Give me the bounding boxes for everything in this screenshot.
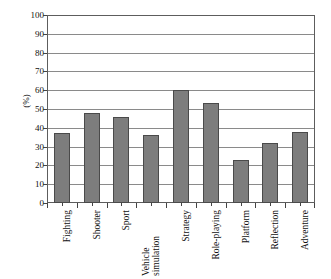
bar[interactable] xyxy=(233,160,249,203)
bar[interactable] xyxy=(84,113,100,203)
bar-slot xyxy=(166,15,196,203)
x-axis-tick-mark xyxy=(255,203,256,208)
y-axis-tick-label: 60 xyxy=(22,86,44,95)
y-axis-tick-label: 40 xyxy=(22,123,44,132)
x-axis-tick-mark xyxy=(226,203,227,208)
x-axis-tick-mark xyxy=(270,203,271,206)
x-axis-tick-label-line: simulation xyxy=(151,210,161,276)
x-axis-tick-label: Role-playing xyxy=(211,210,221,260)
bar-slot xyxy=(136,15,166,203)
y-axis-tick-mark xyxy=(43,53,47,54)
y-axis-tick-label: 100 xyxy=(22,11,44,20)
x-axis-tick-label: Sport xyxy=(121,210,131,231)
x-axis-tick-label: Shooter xyxy=(92,210,102,240)
x-axis-tick-mark xyxy=(62,203,63,206)
y-axis-tick-label: 30 xyxy=(22,142,44,151)
y-axis-tick-label: 90 xyxy=(22,29,44,38)
x-axis-label-wrap: Sport xyxy=(107,210,137,279)
bar[interactable] xyxy=(113,117,129,203)
y-axis-tick-label: 70 xyxy=(22,67,44,76)
y-axis-tick-label: 50 xyxy=(22,105,44,114)
x-axis-tick-mark xyxy=(136,203,137,208)
y-axis-tick-mark xyxy=(43,90,47,91)
bar[interactable] xyxy=(262,143,278,203)
bar-slot xyxy=(196,15,226,203)
bar-slot xyxy=(47,15,77,203)
bar[interactable] xyxy=(143,135,159,203)
bar-chart-figure: (%) 1009080706050403020100 FightingShoot… xyxy=(0,0,331,279)
x-axis-tick-mark xyxy=(77,203,78,208)
x-axis-tick-mark xyxy=(107,203,108,208)
x-axis-label-wrap: Fighting xyxy=(47,210,77,279)
bar-slot xyxy=(285,15,315,203)
y-axis-tick-label: 20 xyxy=(22,161,44,170)
y-axis-tick-label: 10 xyxy=(22,180,44,189)
x-axis-tick-mark xyxy=(314,203,315,208)
x-axis-tick-mark xyxy=(121,203,122,206)
bar[interactable] xyxy=(54,133,70,203)
x-axis-tick-label: Reflection xyxy=(270,210,280,250)
x-axis-tick-labels: FightingShooterSportVehiclesimulationStr… xyxy=(47,210,315,279)
x-axis-tick-mark xyxy=(151,203,152,206)
y-axis-tick-label: 80 xyxy=(22,48,44,57)
x-axis-tick-label: Fighting xyxy=(62,210,72,242)
x-axis-tick-label-line: Vehicle xyxy=(141,248,151,277)
x-axis-tick-mark xyxy=(300,203,301,206)
x-axis-label-wrap: Adventure xyxy=(285,210,315,279)
y-axis-tick-mark xyxy=(43,15,47,16)
y-axis-tick-mark xyxy=(43,34,47,35)
y-axis-tick-mark xyxy=(43,147,47,148)
x-axis-label-wrap: Role-playing xyxy=(196,210,226,279)
bar-slot xyxy=(255,15,285,203)
y-axis-tick-label: 0 xyxy=(22,199,44,208)
x-axis-tick-label: Vehiclesimulation xyxy=(141,210,161,276)
y-axis-tick-mark xyxy=(43,128,47,129)
x-axis-tick-mark xyxy=(92,203,93,206)
y-axis-tick-mark xyxy=(43,71,47,72)
bar[interactable] xyxy=(292,132,308,203)
x-axis-label-wrap: Reflection xyxy=(255,210,285,279)
bar-slot xyxy=(77,15,107,203)
x-axis-tick-marks xyxy=(47,203,315,209)
bar[interactable] xyxy=(173,90,189,203)
x-axis-tick-mark xyxy=(181,203,182,206)
y-axis-tick-mark xyxy=(43,184,47,185)
y-axis-tick-mark xyxy=(43,165,47,166)
bar-slot xyxy=(226,15,256,203)
y-axis-tick-mark xyxy=(43,109,47,110)
x-axis-tick-mark xyxy=(47,203,48,208)
x-axis-label-wrap: Vehiclesimulation xyxy=(136,210,166,279)
x-axis-label-wrap: Platform xyxy=(226,210,256,279)
x-axis-tick-label: Platform xyxy=(241,210,251,243)
bar-slot xyxy=(107,15,137,203)
y-axis-tick-labels: 1009080706050403020100 xyxy=(20,15,44,203)
x-axis-tick-label: Adventure xyxy=(300,210,310,250)
x-axis-tick-mark xyxy=(285,203,286,208)
x-axis-label-wrap: Strategy xyxy=(166,210,196,279)
x-axis-tick-mark xyxy=(196,203,197,208)
y-axis-tick-mark xyxy=(43,203,47,204)
bars-layer xyxy=(47,15,315,203)
x-axis-tick-mark xyxy=(241,203,242,206)
x-axis-tick-label: Strategy xyxy=(181,210,191,242)
bar[interactable] xyxy=(203,103,219,203)
x-axis-tick-mark xyxy=(211,203,212,206)
x-axis-label-wrap: Shooter xyxy=(77,210,107,279)
x-axis-tick-mark xyxy=(166,203,167,208)
